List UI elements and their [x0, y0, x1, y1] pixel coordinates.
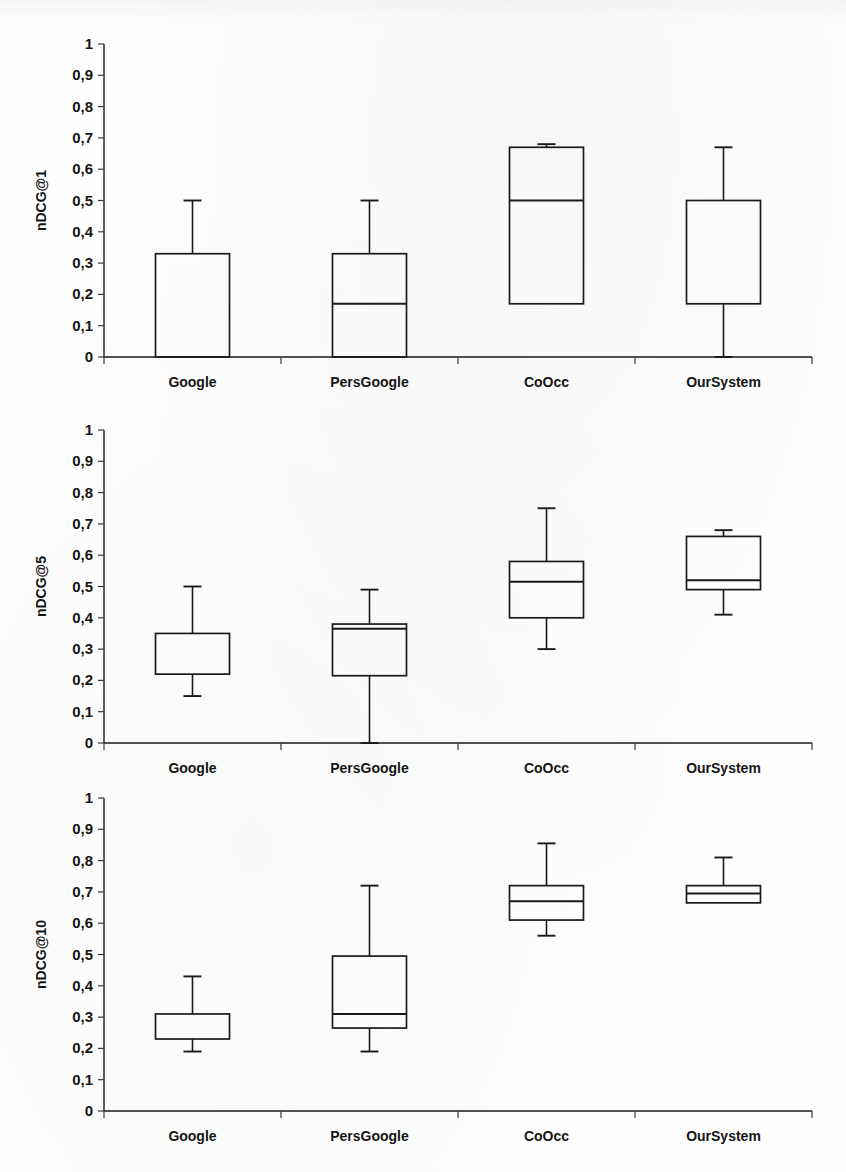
y-tick-label: 0,1 [72, 317, 93, 334]
chart-axes [104, 798, 812, 1111]
boxplot-svg-1: 10,90,80,70,60,50,40,30,20,10nDCG@5Googl… [0, 402, 846, 788]
y-tick-label: 0 [85, 734, 93, 751]
y-tick-label: 0,5 [72, 946, 93, 963]
y-tick-label: 0,4 [72, 977, 94, 994]
y-axis-title: nDCG@10 [33, 920, 49, 989]
y-tick-label: 0,3 [72, 1008, 93, 1025]
y-tick-label: 0,3 [72, 254, 93, 271]
box-plot-coocc [510, 508, 584, 649]
box-iqr-rect [156, 254, 230, 357]
y-tick-label: 0,9 [72, 66, 93, 83]
y-tick-label: 0,9 [72, 820, 93, 837]
y-tick-label: 0,6 [72, 546, 93, 563]
box-plot-coocc [510, 144, 584, 304]
box-plot-coocc [510, 843, 584, 935]
boxplot-panel-ndcg-at-5: 10,90,80,70,60,50,40,30,20,10nDCG@5Googl… [0, 402, 846, 788]
figure-page: 10,90,80,70,60,50,40,30,20,10nDCG@1Googl… [0, 0, 846, 1172]
x-category-label: CoOcc [524, 1128, 569, 1144]
y-tick-label: 0,7 [72, 129, 93, 146]
y-tick-label: 0,7 [72, 515, 93, 532]
y-tick-label: 0,7 [72, 883, 93, 900]
x-category-label: PersGoogle [330, 374, 409, 390]
y-tick-label: 0 [85, 1102, 93, 1119]
box-iqr-rect [156, 1014, 230, 1039]
x-category-label: OurSystem [686, 1128, 761, 1144]
box-iqr-rect [510, 886, 584, 920]
x-category-label: CoOcc [524, 374, 569, 390]
x-category-label: OurSystem [686, 374, 761, 390]
y-tick-label: 0,2 [72, 285, 93, 302]
y-tick-label: 0,8 [72, 852, 93, 869]
y-tick-label: 0,5 [72, 192, 93, 209]
y-tick-label: 1 [85, 35, 93, 52]
y-tick-label: 0,4 [72, 609, 94, 626]
y-tick-label: 1 [85, 789, 93, 806]
boxplot-svg-0: 10,90,80,70,60,50,40,30,20,10nDCG@1Googl… [0, 16, 846, 402]
y-tick-label: 0,4 [72, 223, 94, 240]
box-plot-persgoogle [333, 201, 407, 358]
y-tick-label: 0 [85, 348, 93, 365]
box-iqr-rect [510, 561, 584, 617]
box-plot-google [156, 976, 230, 1051]
box-plot-google [156, 201, 230, 358]
box-iqr-rect [687, 536, 761, 589]
y-tick-label: 0,2 [72, 671, 93, 688]
y-tick-label: 0,6 [72, 160, 93, 177]
y-tick-label: 0,5 [72, 578, 93, 595]
x-category-label: Google [168, 374, 216, 390]
y-tick-label: 0,1 [72, 1071, 93, 1088]
x-category-label: PersGoogle [330, 1128, 409, 1144]
chart-axes [104, 430, 812, 743]
box-plot-persgoogle [333, 590, 407, 743]
x-category-label: Google [168, 1128, 216, 1144]
box-iqr-rect [510, 147, 584, 303]
box-plot-oursystem [687, 147, 761, 357]
box-iqr-rect [333, 624, 407, 676]
boxplot-svg-2: 10,90,80,70,60,50,40,30,20,10nDCG@10Goog… [0, 770, 846, 1170]
y-tick-label: 0,6 [72, 914, 93, 931]
box-iqr-rect [156, 633, 230, 674]
y-tick-label: 0,3 [72, 640, 93, 657]
box-plot-persgoogle [333, 886, 407, 1052]
y-tick-label: 0,1 [72, 703, 93, 720]
boxplot-panel-ndcg-at-1: 10,90,80,70,60,50,40,30,20,10nDCG@1Googl… [0, 16, 846, 402]
y-tick-label: 0,9 [72, 452, 93, 469]
y-axis-title: nDCG@1 [33, 170, 49, 231]
box-plot-oursystem [687, 530, 761, 615]
y-tick-label: 0,8 [72, 98, 93, 115]
box-plot-google [156, 587, 230, 697]
box-iqr-rect [687, 201, 761, 304]
y-axis-title: nDCG@5 [33, 556, 49, 617]
y-tick-label: 1 [85, 421, 93, 438]
box-iqr-rect [333, 254, 407, 357]
box-iqr-rect [333, 956, 407, 1028]
y-tick-label: 0,2 [72, 1039, 93, 1056]
boxplot-panel-ndcg-at-10: 10,90,80,70,60,50,40,30,20,10nDCG@10Goog… [0, 770, 846, 1170]
box-plot-oursystem [687, 857, 761, 902]
y-tick-label: 0,8 [72, 484, 93, 501]
